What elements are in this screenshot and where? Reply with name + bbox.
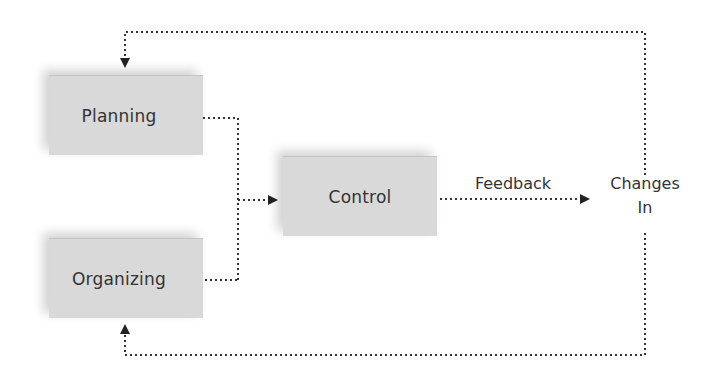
control-label: Control bbox=[329, 187, 392, 207]
organizing-label: Organizing bbox=[72, 269, 166, 289]
organizing-box: Organizing bbox=[49, 238, 203, 318]
changes-label-line2: In bbox=[596, 196, 694, 220]
loop-to-organizing bbox=[125, 233, 645, 355]
feedback-label: Feedback bbox=[458, 172, 568, 196]
loop-to-planning bbox=[125, 32, 645, 175]
planning-label: Planning bbox=[82, 106, 157, 126]
changes-in-label: Changes In bbox=[596, 172, 694, 220]
changes-label-line1: Changes bbox=[596, 172, 694, 196]
control-box: Control bbox=[283, 156, 437, 236]
planning-box: Planning bbox=[49, 75, 203, 155]
